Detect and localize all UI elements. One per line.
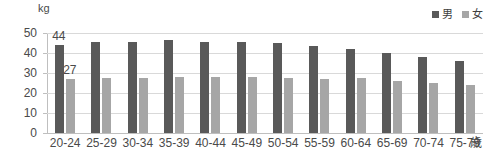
bar-group xyxy=(301,33,337,133)
bar-female[interactable] xyxy=(66,79,75,133)
y-axis-tick-label: 50 xyxy=(24,27,37,39)
plot-area: 4427 xyxy=(47,33,483,133)
x-axis-tick-label: 25-29 xyxy=(86,137,117,149)
bar-female[interactable] xyxy=(175,77,184,133)
bar-female[interactable] xyxy=(211,77,220,133)
bar-group xyxy=(410,33,446,133)
bar-female[interactable] xyxy=(284,78,293,133)
x-axis-line xyxy=(47,133,483,134)
y-axis-tick-label: 40 xyxy=(24,47,37,59)
legend-entry[interactable]: 女 xyxy=(462,9,483,20)
legend-swatch-icon xyxy=(462,11,469,18)
bar-female[interactable] xyxy=(357,78,366,133)
bar-group xyxy=(447,33,483,133)
bar-group xyxy=(156,33,192,133)
x-axis-tick-label: 70-74 xyxy=(413,137,444,149)
bar-male[interactable] xyxy=(200,42,209,133)
x-axis-tick-label: 40-44 xyxy=(195,137,226,149)
bar-male[interactable] xyxy=(55,45,64,133)
y-axis-tick-mark xyxy=(43,73,47,74)
bar-male[interactable] xyxy=(273,43,282,133)
x-axis-unit-label: 歳 xyxy=(470,137,482,149)
bar-male[interactable] xyxy=(346,49,355,133)
x-axis-tick-label: 35-39 xyxy=(159,137,190,149)
y-axis-tick-mark xyxy=(43,53,47,54)
bar-male[interactable] xyxy=(91,42,100,133)
bar-group: 4427 xyxy=(47,33,83,133)
bar-data-label: 44 xyxy=(52,30,65,42)
bar-male[interactable] xyxy=(309,46,318,133)
y-axis-labels: 01020304050 xyxy=(0,0,44,168)
x-axis-tick-label: 30-34 xyxy=(122,137,153,149)
y-axis-tick-mark xyxy=(43,33,47,34)
y-axis-tick-label: 30 xyxy=(24,67,37,79)
bar-group xyxy=(338,33,374,133)
bar-group xyxy=(265,33,301,133)
legend-label: 女 xyxy=(472,9,483,20)
x-axis-labels: 20-2425-2930-3435-3940-4445-4950-5455-59… xyxy=(47,137,483,157)
bar-group xyxy=(229,33,265,133)
bar-data-label: 27 xyxy=(63,64,76,76)
bar-group xyxy=(192,33,228,133)
y-axis-tick-mark xyxy=(43,113,47,114)
x-axis-tick-label: 45-49 xyxy=(231,137,262,149)
bar-female[interactable] xyxy=(139,78,148,133)
bar-male[interactable] xyxy=(455,61,464,133)
bar-female[interactable] xyxy=(102,78,111,133)
legend-entry[interactable]: 男 xyxy=(432,9,453,20)
bar-female[interactable] xyxy=(429,83,438,133)
x-axis-tick-label: 65-69 xyxy=(377,137,408,149)
bar-male[interactable] xyxy=(237,42,246,133)
legend-label: 男 xyxy=(442,9,453,20)
bar-group xyxy=(120,33,156,133)
chart-legend: 男女 xyxy=(432,9,483,20)
bar-group xyxy=(374,33,410,133)
x-axis-tick-label: 50-54 xyxy=(268,137,299,149)
bar-male[interactable] xyxy=(382,53,391,133)
bar-male[interactable] xyxy=(164,40,173,133)
bar-female[interactable] xyxy=(393,81,402,133)
x-axis-tick-label: 20-24 xyxy=(50,137,81,149)
y-axis-tick-label: 20 xyxy=(24,87,37,99)
y-axis-tick-label: 10 xyxy=(24,107,37,119)
bar-male[interactable] xyxy=(418,57,427,133)
bar-female[interactable] xyxy=(248,77,257,133)
x-axis-tick-label: 60-64 xyxy=(340,137,371,149)
y-axis-tick-mark xyxy=(43,133,47,134)
y-axis-tick-mark xyxy=(43,93,47,94)
bar-female[interactable] xyxy=(320,79,329,133)
bar-male[interactable] xyxy=(128,42,137,133)
bar-group xyxy=(83,33,119,133)
legend-swatch-icon xyxy=(432,11,439,18)
bar-chart: kg 男女 01020304050 4427 20-2425-2930-3435… xyxy=(0,0,491,168)
bar-female[interactable] xyxy=(466,85,475,133)
x-axis-tick-label: 55-59 xyxy=(304,137,335,149)
y-axis-tick-label: 0 xyxy=(30,127,37,139)
